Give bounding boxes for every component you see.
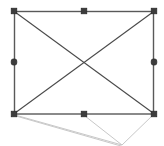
diagonal-cross-group [15, 12, 153, 113]
handle-bottom-left[interactable] [11, 111, 17, 117]
handle-bottom-right[interactable] [151, 111, 157, 117]
handle-top-center[interactable] [81, 8, 87, 14]
handle-middle-right[interactable] [151, 59, 157, 65]
scene-svg [0, 0, 164, 146]
drawing-canvas[interactable] [0, 0, 164, 146]
handle-bottom-center[interactable] [81, 111, 87, 117]
handle-top-right[interactable] [151, 8, 157, 14]
guide-bottom-left-to-vanishing [15, 115, 122, 145]
handle-middle-left[interactable] [11, 59, 17, 65]
handle-top-left[interactable] [11, 8, 17, 14]
guide-lines-group [15, 115, 153, 146]
guide-bottom-right-to-vanishing [122, 115, 153, 145]
guide-left-sweep-lower [16, 116, 121, 146]
